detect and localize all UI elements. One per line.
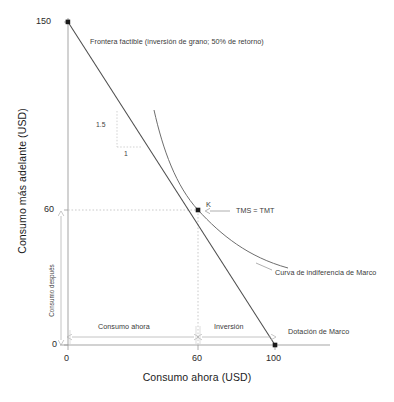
x-tick-0: 0: [64, 353, 69, 363]
x-tick-100: 100: [266, 353, 281, 363]
tick-marks: [64, 22, 275, 350]
axis-lines: [60, 18, 330, 345]
slope-run-label: 1: [124, 150, 128, 157]
y-axis-title: Consumo más adelante (USD): [16, 81, 28, 281]
tangency-condition-label: TMS = TMT: [236, 206, 274, 215]
y-tick-150: 150: [36, 16, 51, 26]
chart-figure: Consumo ahora (USD) Consumo más adelante…: [0, 0, 394, 402]
x-tick-60: 60: [192, 353, 202, 363]
point-k-label: K: [206, 200, 211, 209]
bracket-consumption-later-label: Consumo después: [48, 236, 55, 346]
indifference-curve-label: Curva de indiferencia de Marco: [275, 268, 376, 277]
plot-canvas: [0, 0, 394, 402]
bracket-consumption-now-label: Consumo ahora: [98, 322, 150, 331]
indifference-curve: [154, 110, 288, 268]
slope-rise-label: 1.5: [96, 121, 105, 128]
slope-triangle: [117, 111, 142, 147]
bracket-investment-label: Inversión: [214, 322, 244, 331]
endowment-label: Dotación de Marco: [288, 327, 349, 336]
y-tick-60: 60: [44, 204, 54, 214]
x-axis-title: Consumo ahora (USD): [0, 371, 394, 383]
indifference-label-leader: [256, 263, 272, 270]
feasible-frontier-line: [68, 22, 275, 345]
frontier-label: Frontera factible (inversión de grano; 5…: [90, 37, 264, 46]
